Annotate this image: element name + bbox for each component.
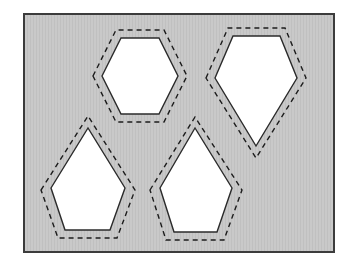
nesting-diagram-canvas xyxy=(0,0,354,272)
nesting-svg xyxy=(0,0,354,272)
